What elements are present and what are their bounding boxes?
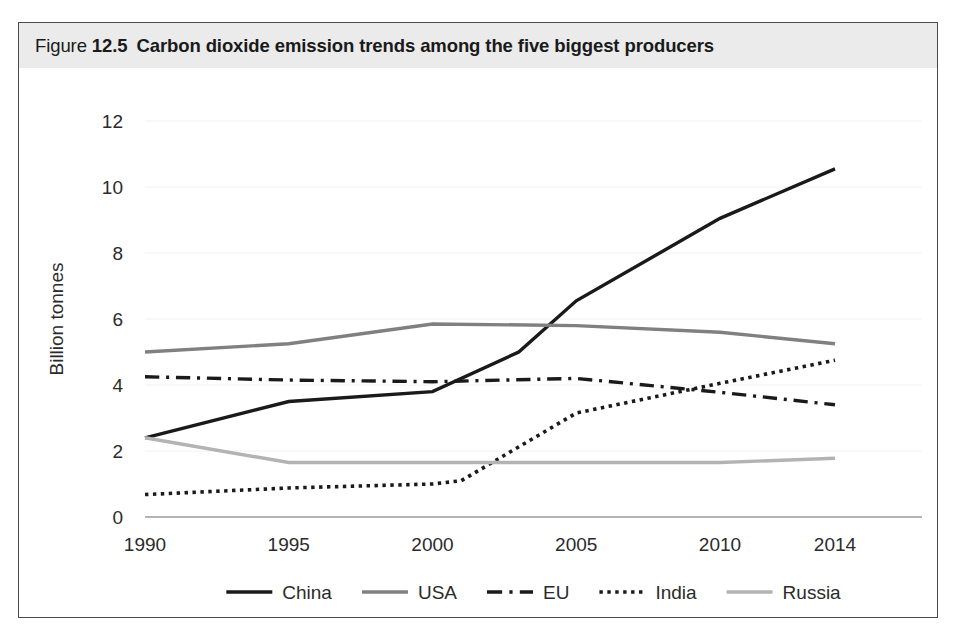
x-tick-label: 2000 xyxy=(411,534,453,555)
chart-series xyxy=(145,169,835,495)
figure-caption: Carbon dioxide emission trends among the… xyxy=(136,35,714,56)
y-tick-label: 0 xyxy=(112,507,123,528)
legend-label-russia: Russia xyxy=(783,582,842,603)
x-tick-label: 2010 xyxy=(699,534,741,555)
series-line-usa xyxy=(145,324,835,352)
y-axis-tick-labels: 024681012 xyxy=(102,111,124,528)
y-axis-title: Billion tonnes xyxy=(46,262,67,375)
x-tick-label: 2005 xyxy=(555,534,597,555)
figure-container: Figure12.5Carbon dioxide emission trends… xyxy=(18,22,938,618)
legend-label-usa: USA xyxy=(418,582,457,603)
x-tick-label: 2014 xyxy=(814,534,857,555)
series-line-china xyxy=(145,169,835,438)
series-line-eu xyxy=(145,377,835,405)
y-tick-label: 10 xyxy=(102,177,123,198)
y-tick-label: 2 xyxy=(112,441,123,462)
chart-legend: ChinaUSAEUIndiaRussia xyxy=(226,582,841,603)
figure-title: Figure12.5Carbon dioxide emission trends… xyxy=(19,35,714,57)
x-axis-tick-labels: 199019952000200520102014 xyxy=(124,534,857,555)
line-chart: 024681012 199019952000200520102014 Billi… xyxy=(19,68,936,619)
figure-number: 12.5 xyxy=(92,35,128,56)
chart-plot-area: 024681012 199019952000200520102014 Billi… xyxy=(19,68,937,619)
legend-label-india: India xyxy=(655,582,697,603)
series-line-russia xyxy=(145,438,835,463)
y-tick-label: 12 xyxy=(102,111,123,132)
figure-title-bar: Figure12.5Carbon dioxide emission trends… xyxy=(19,23,937,68)
axis-titles: Billion tonnes xyxy=(46,262,67,375)
x-tick-label: 1990 xyxy=(124,534,166,555)
y-tick-label: 8 xyxy=(112,243,123,264)
y-tick-label: 4 xyxy=(112,375,123,396)
y-tick-label: 6 xyxy=(112,309,123,330)
legend-label-eu: EU xyxy=(543,582,569,603)
x-tick-label: 1995 xyxy=(268,534,310,555)
legend-label-china: China xyxy=(282,582,332,603)
figure-label-word: Figure xyxy=(35,35,87,56)
